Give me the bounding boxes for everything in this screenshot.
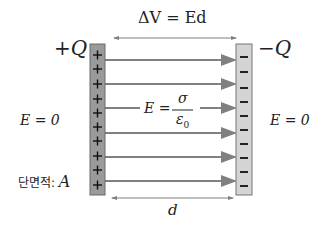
field-formula-denominator: ε0 xyxy=(176,111,189,130)
left-field-label: E = 0 xyxy=(20,112,60,128)
negative-plate xyxy=(236,44,252,195)
field-lines xyxy=(105,60,235,181)
distance-label: d xyxy=(168,201,178,219)
field-formula-lhs: E = xyxy=(144,100,170,116)
plus-q-label: +Q xyxy=(54,36,87,60)
voltage-label: ΔV = Ed xyxy=(138,8,207,27)
minus-q-label: −Q xyxy=(258,36,291,60)
field-formula-numerator: σ xyxy=(178,90,188,106)
positive-plate xyxy=(90,44,105,195)
right-field-label: E = 0 xyxy=(270,112,310,128)
area-label: 단면적: A xyxy=(18,172,70,191)
